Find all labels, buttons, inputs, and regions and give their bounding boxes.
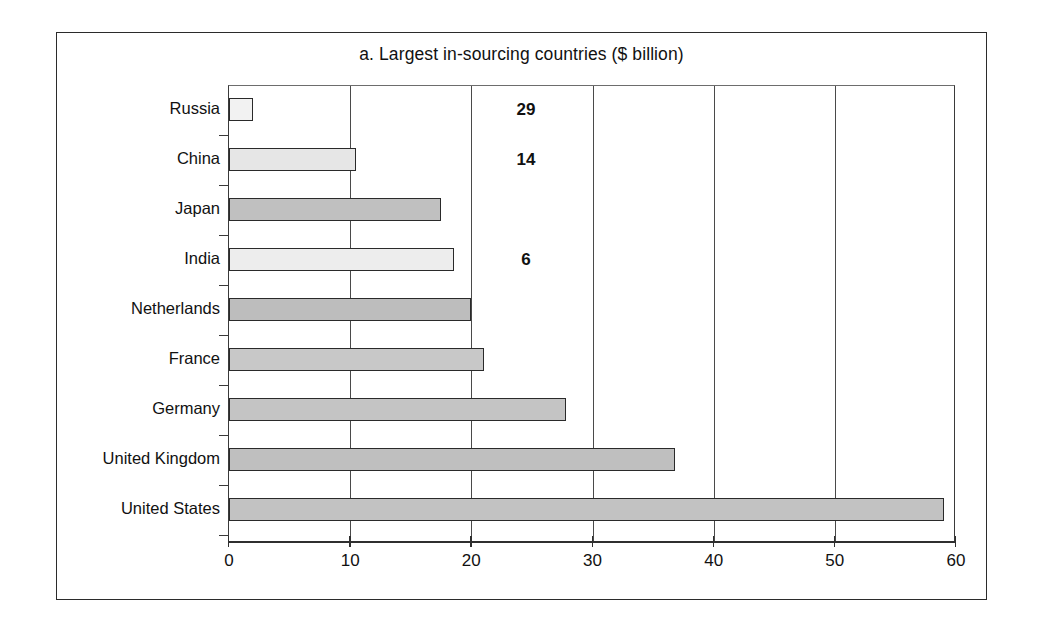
- xticklabel-10: 10: [341, 551, 360, 571]
- ytick-7: [219, 485, 228, 486]
- xticklabel-40: 40: [704, 551, 723, 571]
- bar-france: [229, 348, 484, 371]
- ytick-4: [219, 335, 228, 336]
- chart-title: a. Largest in-sourcing countries ($ bill…: [56, 44, 987, 65]
- ylabel-germany: Germany: [40, 399, 220, 418]
- ylabel-united-kingdom: United Kingdom: [40, 449, 220, 468]
- xticklabel-0: 0: [224, 551, 233, 571]
- xtick-0: [228, 536, 229, 547]
- bar-united-states: [229, 498, 944, 521]
- ytick-3: [219, 285, 228, 286]
- ytick-1: [219, 185, 228, 186]
- xticklabel-20: 20: [462, 551, 481, 571]
- ylabel-france: France: [40, 349, 220, 368]
- xticklabel-60: 60: [947, 551, 966, 571]
- xtick-10: [349, 536, 350, 547]
- ylabel-india: India: [40, 249, 220, 268]
- data-label-14: 14: [517, 150, 536, 170]
- xtick-60: [955, 536, 956, 547]
- ytick-0: [219, 135, 228, 136]
- ylabel-russia: Russia: [40, 99, 220, 118]
- bar-india: [229, 248, 454, 271]
- ytick-8: [219, 535, 228, 536]
- gridline-50: [835, 86, 836, 541]
- gridline-30: [593, 86, 594, 541]
- xtick-50: [834, 536, 835, 547]
- bar-russia: [229, 98, 253, 121]
- xticklabel-50: 50: [825, 551, 844, 571]
- bar-japan: [229, 198, 441, 221]
- bar-united-kingdom: [229, 448, 675, 471]
- xtick-40: [713, 536, 714, 547]
- data-label-6: 6: [521, 250, 530, 270]
- xticklabel-30: 30: [583, 551, 602, 571]
- figure-container: a. Largest in-sourcing countries ($ bill…: [0, 0, 1037, 632]
- gridline-40: [714, 86, 715, 541]
- xtick-30: [592, 536, 593, 547]
- bar-china: [229, 148, 356, 171]
- xtick-20: [470, 536, 471, 547]
- ylabel-netherlands: Netherlands: [40, 299, 220, 318]
- bar-germany: [229, 398, 566, 421]
- ytick-2: [219, 235, 228, 236]
- plot-area: 29 14 6: [228, 85, 955, 541]
- bar-netherlands: [229, 298, 471, 321]
- ylabel-united-states: United States: [40, 499, 220, 518]
- ylabel-china: China: [40, 149, 220, 168]
- data-label-29: 29: [517, 100, 536, 120]
- ylabel-japan: Japan: [40, 199, 220, 218]
- ytick-5: [219, 385, 228, 386]
- ytick-6: [219, 435, 228, 436]
- gridline-20: [471, 86, 472, 541]
